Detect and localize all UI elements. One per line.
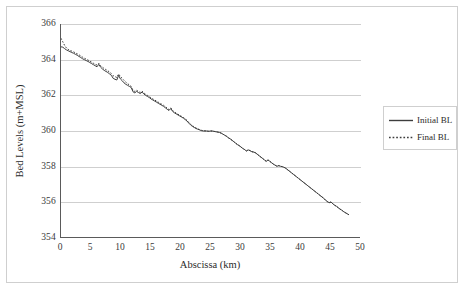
x-tick-label-25: 25 [198,242,222,253]
legend-swatch-dotted-line-icon [388,133,414,142]
x-tick-label-30: 30 [228,242,252,253]
y-tick-label-358: 358 [30,162,56,172]
plot-canvas [61,24,361,238]
y-tick-label-366: 366 [30,19,56,29]
x-axis-tick-labels: 05101520253035404550 [60,242,360,256]
y-tick-label-360: 360 [30,126,56,136]
x-tick-label-20: 20 [168,242,192,253]
x-tick-label-0: 0 [48,242,72,253]
x-tick-label-15: 15 [138,242,162,253]
x-tick-label-10: 10 [108,242,132,253]
chart-legend: Initial BL Final BL [383,106,457,150]
y-axis-tick-labels: 354356358360362364366 [26,24,56,238]
legend-label-initial-bl: Initial BL [414,116,452,125]
legend-item-final-bl[interactable]: Final BL [388,129,452,146]
x-tick-label-50: 50 [348,242,372,253]
x-axis-title: Abscissa (km) [60,258,360,271]
legend-swatch-solid-line-icon [388,116,414,125]
x-tick-label-35: 35 [258,242,282,253]
legend-label-final-bl: Final BL [414,133,449,142]
y-tick-label-356: 356 [30,197,56,207]
chart-figure: Bed Levels (m+MSL) 354356358360362364366… [0,0,465,290]
y-tick-label-364: 364 [30,55,56,65]
x-tick-label-5: 5 [78,242,102,253]
series-line-final-bl [61,38,349,215]
y-tick-label-362: 362 [30,90,56,100]
plot-area [60,24,360,238]
x-tick-label-45: 45 [318,242,342,253]
x-tick-label-40: 40 [288,242,312,253]
legend-item-initial-bl[interactable]: Initial BL [388,112,452,129]
